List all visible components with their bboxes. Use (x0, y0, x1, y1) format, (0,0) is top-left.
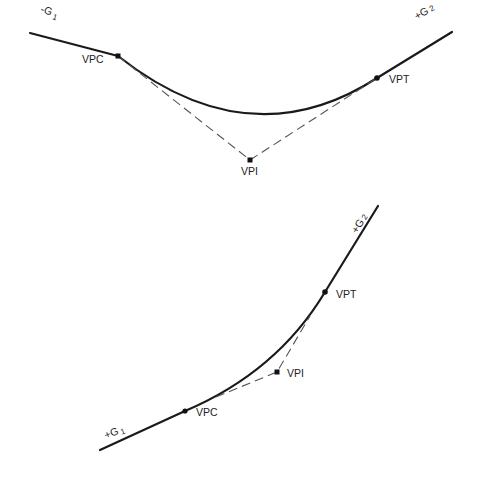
vpt-label: VPT (336, 288, 357, 300)
rising-curve-diagram: +G1 +G2 VPC VPT VPI (100, 206, 378, 450)
vpc-label: VPC (82, 53, 104, 65)
vpc-point (116, 54, 121, 59)
outgoing-grade-line (377, 32, 452, 78)
incoming-grade-line (30, 33, 118, 56)
sag-curve-diagram: -G1 +G2 VPC VPT VPI (30, 1, 452, 177)
vpt-point (374, 75, 380, 81)
vpt-point (322, 289, 328, 295)
outgoing-grade-line (325, 206, 378, 292)
vpc-label: VPC (196, 406, 218, 418)
svg-text:-G1: -G1 (38, 2, 60, 22)
tangent-extensions (216, 316, 310, 397)
vpi-point (275, 370, 280, 375)
grade-out-label: +G2 (412, 1, 436, 22)
vertical-curve (185, 292, 325, 411)
diagram-canvas: -G1 +G2 VPC VPT VPI +G1 +G2 VPC VPT VPI (0, 0, 484, 478)
vpc-point (182, 408, 187, 413)
grade-in-label: -G1 (38, 2, 60, 22)
vpi-point (248, 158, 253, 163)
vpt-label: VPT (389, 73, 410, 85)
vertical-curve (118, 56, 377, 114)
svg-text:+G2: +G2 (412, 1, 436, 22)
tangent-extensions (118, 56, 377, 160)
vpi-label: VPI (287, 367, 304, 379)
vpi-label: VPI (241, 165, 258, 177)
